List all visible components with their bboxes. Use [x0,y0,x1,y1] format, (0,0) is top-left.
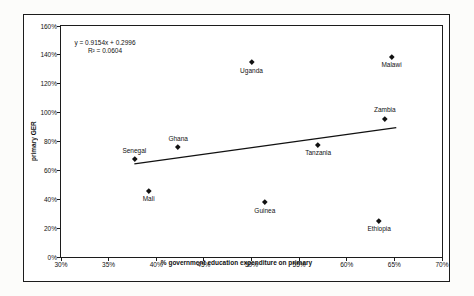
data-point-label: Ethiopia [349,225,409,232]
y-axis-tick-label: 20% [29,225,57,232]
data-point-label: Malawi [362,61,422,68]
data-point-label: Uganda [222,67,282,74]
y-axis-tick-label: 120% [29,80,57,87]
y-axis-tick-label: 80% [29,138,57,145]
data-point-label: Senegal [104,147,164,154]
data-point-label: Ghana [148,135,208,142]
figure-frame: y = 0.9154x + 0.2996 R² = 0.0604 primary… [23,14,450,282]
y-axis-tick-label: 40% [29,196,57,203]
data-point-label: Guinea [235,207,295,214]
plot-area: y = 0.9154x + 0.2996 R² = 0.0604 primary… [60,25,443,258]
y-axis-tick-label: 140% [29,51,57,58]
trendline-segment [134,128,396,164]
data-point-label: Mali [119,195,179,202]
data-point-label: Tanzania [288,149,348,156]
data-point-label: Zambia [355,106,415,113]
y-axis-tick-label: 160% [29,23,57,30]
screenshot-root: { "chart_data": { "type": "scatter", "ti… [0,0,474,296]
y-axis-tick-label: 60% [29,167,57,174]
y-axis-tick-label: 100% [29,109,57,116]
x-axis-title: % government education expenditure on pr… [24,259,449,266]
